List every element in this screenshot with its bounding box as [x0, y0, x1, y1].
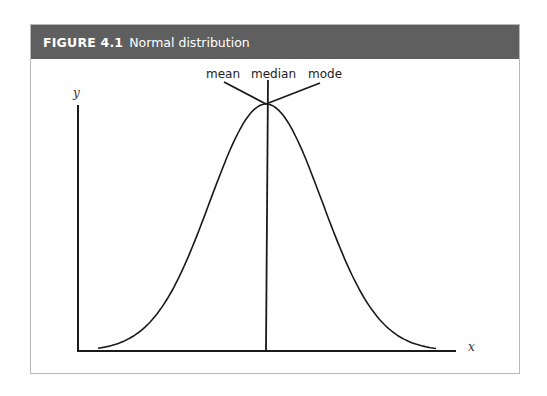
median-label: median	[251, 67, 296, 81]
mean-label: mean	[206, 67, 240, 81]
chart-plot: y x mean median mode	[0, 0, 547, 396]
mode-leader	[266, 83, 320, 104]
mode-label: mode	[308, 67, 342, 81]
median-line	[266, 80, 268, 351]
y-axis-label: y	[72, 86, 80, 100]
x-axis-label: x	[468, 340, 475, 354]
mean-leader	[224, 82, 266, 104]
